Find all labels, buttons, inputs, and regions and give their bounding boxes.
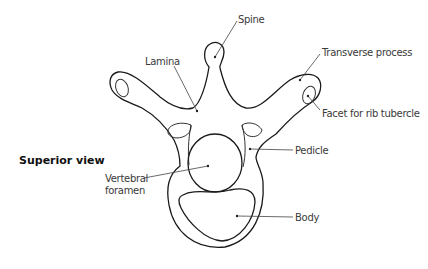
right-articular-process	[242, 123, 262, 167]
label-body: Body	[295, 212, 319, 223]
label-facet-for-rib-tubercle: Facet for rib tubercle	[322, 108, 420, 119]
label-spine: Spine	[238, 14, 264, 25]
label-lamina: Lamina	[145, 56, 180, 67]
label-vertebral-foramen-line1: Vertebral	[105, 173, 148, 184]
view-title: Superior view	[19, 154, 105, 167]
vertebra-diagram	[0, 0, 428, 269]
label-pedicle: Pedicle	[295, 145, 328, 156]
leader-lines	[144, 21, 320, 217]
vertebral-foramen	[188, 134, 242, 192]
right-facet	[300, 84, 317, 105]
label-vertebral-foramen-line2: foramen	[105, 185, 145, 196]
label-transverse-process: Transverse process	[322, 47, 412, 58]
body-inner-outline	[179, 189, 255, 241]
